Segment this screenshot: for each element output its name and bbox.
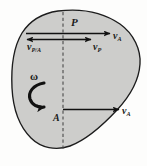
point-label-P: P <box>71 17 78 28</box>
vector-label-v-PA: vP/A <box>27 42 41 52</box>
vector-label-base: v <box>27 41 31 52</box>
vector-label-v-A-bottom: vA <box>122 106 131 116</box>
point-label-A: A <box>53 113 60 123</box>
vector-label-base: v <box>93 41 97 52</box>
vector-label-subscript: A <box>127 110 131 117</box>
vector-label-subscript: A <box>118 35 122 42</box>
vector-label-subscript: P/A <box>32 46 42 53</box>
vector-label-subscript: P <box>98 46 102 53</box>
caption-smudge <box>8 150 138 164</box>
vector-label-v-A-top: vA <box>113 31 122 41</box>
vector-label-v-P: vP <box>93 42 101 52</box>
vector-label-base: v <box>122 105 126 116</box>
angular-velocity-symbol: ω <box>30 71 38 82</box>
vector-label-base: v <box>113 30 117 41</box>
rigid-body-velocity-figure: P A ω vP/A vP vA vA <box>0 0 147 166</box>
